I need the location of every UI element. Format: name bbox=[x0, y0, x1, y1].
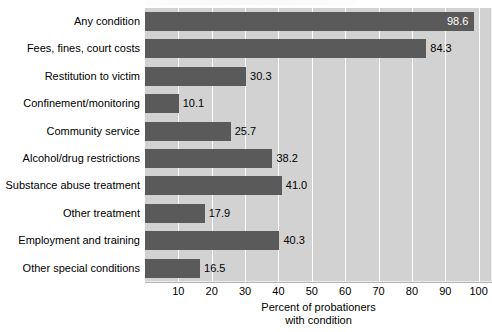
x-axis-title: Percent of probationers with condition bbox=[145, 301, 492, 327]
category-label: Other treatment bbox=[0, 200, 140, 227]
category-label: Restitution to victim bbox=[0, 63, 140, 90]
x-axis-title-line-1: Percent of probationers bbox=[145, 301, 492, 314]
cropped-title-remnant bbox=[145, 0, 355, 5]
category-label: Alcohol/drug restrictions bbox=[0, 145, 140, 172]
category-label: Fees, fines, court costs bbox=[0, 35, 140, 62]
bar-row: 17.9 bbox=[145, 200, 492, 227]
category-label: Employment and training bbox=[0, 227, 140, 254]
category-label: Confinement/monitoring bbox=[0, 90, 140, 117]
category-label: Substance abuse treatment bbox=[0, 172, 140, 199]
bar-row: 10.1 bbox=[145, 90, 492, 117]
bar bbox=[145, 176, 282, 195]
bar-value-label: 17.9 bbox=[209, 204, 230, 223]
x-tick-label-40: 40 bbox=[272, 285, 284, 297]
x-tick-label-60: 60 bbox=[339, 285, 351, 297]
bar-row: 98.6 bbox=[145, 8, 492, 35]
bar-value-label: 98.6 bbox=[447, 12, 468, 31]
category-label: Other special conditions bbox=[0, 255, 140, 282]
bar-value-label: 41.0 bbox=[286, 176, 307, 195]
bar-value-label: 25.7 bbox=[235, 122, 256, 141]
x-tick-label-70: 70 bbox=[372, 285, 384, 297]
x-axis-line bbox=[145, 282, 492, 283]
x-tick-label-80: 80 bbox=[406, 285, 418, 297]
bar bbox=[145, 204, 205, 223]
bar-row: 25.7 bbox=[145, 118, 492, 145]
bar-value-label: 30.3 bbox=[250, 67, 271, 86]
bar-row: 38.2 bbox=[145, 145, 492, 172]
bar-value-label: 38.2 bbox=[276, 149, 297, 168]
category-axis-labels: Any conditionFees, fines, court costsRes… bbox=[0, 8, 140, 282]
x-tick-label-10: 10 bbox=[172, 285, 184, 297]
bar-row: 16.5 bbox=[145, 255, 492, 282]
x-tick-label-20: 20 bbox=[206, 285, 218, 297]
x-tick-label-100: 100 bbox=[469, 285, 487, 297]
bar bbox=[145, 122, 231, 141]
bar-value-label: 10.1 bbox=[183, 94, 204, 113]
bar-chart: 98.684.330.310.125.738.241.017.940.316.5… bbox=[0, 0, 492, 332]
bar bbox=[145, 94, 179, 113]
bar bbox=[145, 12, 474, 31]
bar-value-label: 16.5 bbox=[204, 259, 225, 278]
category-label: Community service bbox=[0, 118, 140, 145]
bar bbox=[145, 259, 200, 278]
x-tick-label-50: 50 bbox=[306, 285, 318, 297]
x-tick-label-30: 30 bbox=[239, 285, 251, 297]
bar-row: 40.3 bbox=[145, 227, 492, 254]
bar bbox=[145, 231, 279, 250]
bar bbox=[145, 67, 246, 86]
bar-value-label: 84.3 bbox=[430, 39, 451, 58]
bar bbox=[145, 149, 272, 168]
x-axis-title-line-2: with condition bbox=[145, 314, 492, 327]
bar-row: 84.3 bbox=[145, 35, 492, 62]
category-label: Any condition bbox=[0, 8, 140, 35]
bar-row: 30.3 bbox=[145, 63, 492, 90]
bar-row: 41.0 bbox=[145, 172, 492, 199]
bar-value-label: 40.3 bbox=[283, 231, 304, 250]
bar bbox=[145, 39, 426, 58]
bar-series: 98.684.330.310.125.738.241.017.940.316.5 bbox=[145, 8, 492, 282]
x-tick-label-90: 90 bbox=[439, 285, 451, 297]
